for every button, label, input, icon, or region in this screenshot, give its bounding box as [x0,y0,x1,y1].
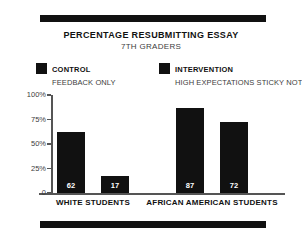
top-rule-bar [40,15,266,22]
legend-name-intervention: INTERVENTION [175,65,233,74]
bottom-rule-bar [40,221,266,228]
bars-layer: 62178772 [0,95,302,193]
bar-value-label: 87 [176,181,204,190]
chart-figure: PERCENTAGE RESUBMITTING ESSAY 7TH GRADER… [0,0,302,240]
bar-value-label: 72 [220,181,248,190]
legend-text-control: CONTROL FEEDBACK ONLY [52,62,116,87]
chart-legend: CONTROL FEEDBACK ONLY INTERVENTION HIGH … [36,62,286,84]
legend-item-control: CONTROL FEEDBACK ONLY [36,62,116,87]
legend-desc-control: FEEDBACK ONLY [52,78,116,87]
legend-swatch-icon [159,63,170,74]
bar: 62 [57,132,85,193]
chart-subtitle: 7TH GRADERS [0,41,302,52]
legend-swatch-icon [36,63,47,74]
bar: 17 [101,176,129,193]
x-axis-line [39,193,285,195]
bar-value-label: 17 [101,181,129,190]
legend-item-intervention: INTERVENTION HIGH EXPECTATIONS STICKY NO… [159,62,302,87]
title-block: PERCENTAGE RESUBMITTING ESSAY 7TH GRADER… [0,30,302,52]
chart-title: PERCENTAGE RESUBMITTING ESSAY [0,30,302,41]
bar: 87 [176,108,204,193]
x-axis-category-label: AFRICAN AMERICAN STUDENTS [122,198,302,207]
legend-text-intervention: INTERVENTION HIGH EXPECTATIONS STICKY NO… [175,62,302,87]
legend-desc-intervention: HIGH EXPECTATIONS STICKY NOTES [175,78,302,87]
bar: 72 [220,122,248,193]
clipped-header-text [6,0,166,7]
bar-value-label: 62 [57,181,85,190]
legend-name-control: CONTROL [52,65,90,74]
